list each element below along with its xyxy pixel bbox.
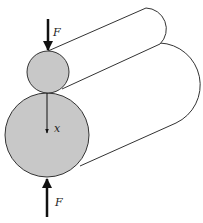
force-label-bottom: F xyxy=(54,196,63,209)
small-cylinder-face xyxy=(27,51,69,93)
roller-contact-diagram: x F F xyxy=(0,0,203,223)
force-label-top: F xyxy=(52,26,61,39)
displacement-label: x xyxy=(54,122,61,135)
